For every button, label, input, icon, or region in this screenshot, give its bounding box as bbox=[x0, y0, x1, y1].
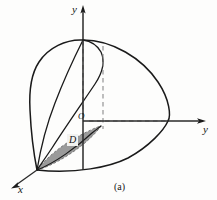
figure-caption: (a) bbox=[114, 182, 125, 192]
origin-label: O bbox=[78, 112, 85, 121]
region-d-label: D bbox=[67, 134, 78, 146]
figure-drawing bbox=[0, 0, 217, 200]
vertical-axis-label: y bbox=[72, 4, 77, 15]
region-d-shape bbox=[37, 126, 101, 170]
horizontal-axis-label: y bbox=[203, 124, 208, 135]
depth-axis-label: x bbox=[18, 184, 23, 195]
figure-container: y y x O D (a) bbox=[0, 0, 217, 200]
